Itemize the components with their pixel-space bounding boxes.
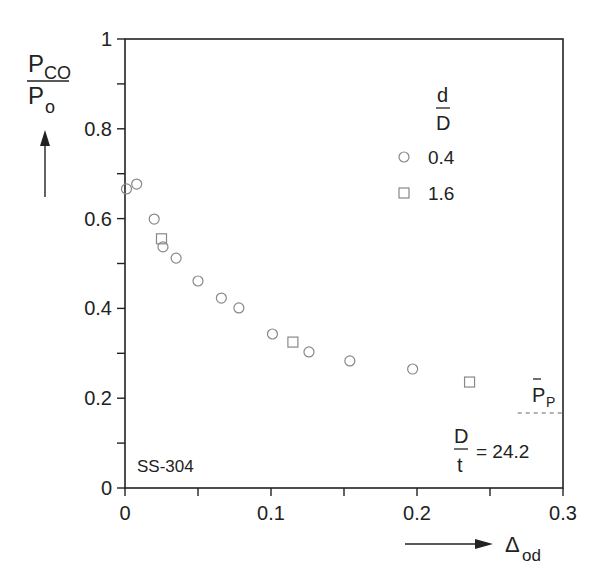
circle-point: [149, 214, 159, 224]
y-axis-label: P CO P o: [27, 50, 71, 197]
x-axis-label: Δ od: [405, 532, 541, 565]
legend-title-den: D: [436, 112, 450, 134]
ref-label-sub: P: [546, 394, 555, 410]
up-arrowhead-icon: [40, 130, 50, 146]
reference-label: P P: [532, 379, 555, 410]
circle-point: [193, 276, 203, 286]
legend-label-0: 0.4: [428, 147, 455, 168]
y-tick-label: 0.6: [84, 208, 112, 230]
y-label-num-sub: CO: [44, 63, 71, 83]
circle-point: [267, 329, 277, 339]
circle-point: [304, 347, 314, 357]
legend-label-1: 1.6: [428, 183, 454, 204]
legend: d D 0.4 1.6: [399, 84, 455, 204]
legend-square-icon: [399, 188, 409, 198]
y-label-den-base: P: [28, 82, 44, 109]
circle-point: [408, 364, 418, 374]
circle-point: [345, 356, 355, 366]
ratio-den: t: [457, 454, 463, 476]
circle-point: [132, 179, 142, 189]
circle-point: [234, 303, 244, 313]
x-tick-label: 0.2: [403, 502, 431, 524]
x-label-sub: od: [522, 546, 541, 565]
x-axis-ticks: 00.10.20.3: [119, 488, 576, 524]
ratio-num: D: [454, 425, 468, 447]
y-label-den-sub: o: [45, 97, 55, 117]
legend-circle-icon: [399, 152, 409, 162]
ref-label-base: P: [532, 384, 545, 406]
y-label-num-base: P: [28, 50, 44, 77]
x-tick-label: 0: [119, 502, 130, 524]
x-tick-label: 0.3: [549, 502, 577, 524]
data-points: [121, 179, 474, 387]
right-arrowhead-icon: [475, 539, 493, 549]
square-point: [288, 337, 298, 347]
circle-point: [121, 184, 131, 194]
y-tick-label: 0.8: [84, 118, 112, 140]
y-tick-label: 1: [101, 28, 112, 50]
y-tick-label: 0.4: [84, 297, 112, 319]
plot-frame: [125, 39, 563, 488]
y-tick-label: 0: [101, 477, 112, 499]
y-axis-ticks: 00.20.40.60.81: [84, 28, 125, 499]
square-point: [465, 377, 475, 387]
circle-point: [216, 293, 226, 303]
x-tick-label: 0.1: [257, 502, 285, 524]
x-label-base: Δ: [505, 532, 520, 557]
material-label: SS-304: [137, 457, 194, 476]
y-tick-label: 0.2: [84, 387, 112, 409]
scatter-chart: 00.20.40.60.81 00.10.20.3 P CO P o Δ od …: [0, 0, 605, 587]
legend-title-num: d: [437, 84, 448, 106]
circle-point: [171, 253, 181, 263]
ratio-annotation: D t = 24.2: [454, 425, 529, 476]
ratio-value: = 24.2: [476, 441, 529, 462]
